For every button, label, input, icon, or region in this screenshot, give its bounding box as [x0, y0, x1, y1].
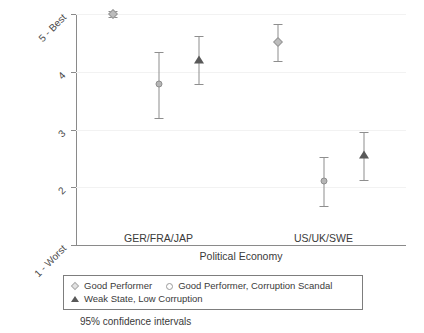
gridline — [76, 187, 406, 188]
x-axis-line — [76, 245, 406, 246]
chart-figure: 5 - Best4321 - Worst Ranking of Governme… — [0, 0, 424, 333]
y-axis-tick — [71, 14, 76, 15]
triangle-marker-icon — [70, 293, 81, 304]
circle-marker-icon — [164, 280, 175, 291]
gridline — [76, 72, 406, 73]
error-bar-cap — [195, 84, 204, 85]
error-bar-cap — [360, 180, 369, 181]
chart-caption: 95% confidence intervals — [80, 316, 191, 327]
y-axis-tick-label: 1 - Worst — [32, 243, 68, 279]
x-axis-tick-label: US/UK/SWE — [294, 232, 353, 244]
y-axis-tick — [71, 187, 76, 188]
legend-label: Weak State, Low Corruption — [84, 293, 203, 304]
x-axis-tick-label: GER/FRA/JAP — [124, 232, 193, 244]
y-axis-tick-label: 2 — [56, 185, 68, 197]
legend-label: Good Performer — [84, 280, 152, 291]
circle-marker-icon — [321, 177, 328, 184]
chart-legend: Good Performer Good Performer, Corruptio… — [63, 275, 363, 310]
y-axis-tick — [71, 245, 76, 246]
plot-area — [76, 14, 406, 245]
data-point-triangle — [364, 14, 365, 245]
circle-marker-icon — [156, 81, 163, 88]
error-bar-cap — [320, 206, 329, 207]
error-bar-cap — [360, 132, 369, 133]
legend-item-corruption-scandal[interactable]: Good Performer, Corruption Scandal — [164, 280, 332, 291]
error-bar-cap — [155, 118, 164, 119]
y-axis-tick-label: 3 — [56, 127, 68, 139]
y-axis-tick — [71, 130, 76, 131]
legend-item-weak-state[interactable]: Weak State, Low Corruption — [70, 293, 203, 304]
error-bar-cap — [274, 61, 283, 62]
legend-label: Good Performer, Corruption Scandal — [178, 280, 332, 291]
data-point-circle — [324, 14, 325, 245]
triangle-marker-icon — [359, 151, 369, 159]
y-axis-tick-label: 5 - Best — [36, 12, 68, 44]
error-bar-cap — [320, 157, 329, 158]
diamond-marker-icon — [273, 37, 283, 47]
triangle-marker-icon — [194, 56, 204, 64]
error-bar-cap — [274, 24, 283, 25]
y-axis-tick — [71, 72, 76, 73]
data-point-circle — [159, 14, 160, 245]
legend-row: Good Performer Good Performer, Corruptio… — [70, 279, 356, 292]
error-bar-cap — [155, 52, 164, 53]
data-point-triangle — [199, 14, 200, 245]
data-point-diamond — [113, 14, 114, 245]
gridline — [76, 14, 406, 15]
diamond-marker-icon — [70, 280, 81, 291]
x-axis-title: Political Economy — [76, 250, 406, 262]
data-point-diamond — [278, 14, 279, 245]
legend-item-good-performer[interactable]: Good Performer — [70, 280, 152, 291]
gridline — [76, 130, 406, 131]
legend-row: Weak State, Low Corruption — [70, 292, 356, 305]
y-axis-tick-label: 4 — [56, 69, 68, 81]
error-bar-cap — [195, 36, 204, 37]
